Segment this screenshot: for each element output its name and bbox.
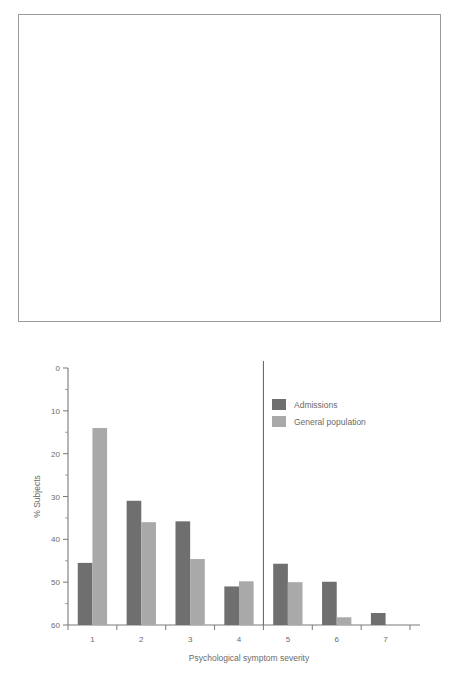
bar-general-population-2 — [141, 522, 156, 625]
y-tick-label-60: 0 — [56, 364, 61, 373]
y-tick-label-10: 50 — [51, 578, 60, 587]
x-tick-label-5: 5 — [286, 635, 291, 644]
false — [272, 416, 286, 427]
x-tick-label-3: 3 — [188, 635, 193, 644]
y-axis-title: % Subjects — [32, 475, 42, 518]
bar-admissions-7 — [371, 613, 386, 625]
bar-admissions-3 — [175, 521, 190, 625]
x-tick-label-7: 7 — [383, 635, 388, 644]
figure-symptom-severity: 60504030201001234567Psychological sympto… — [0, 340, 460, 676]
figure-distress-curves: %50403020101234567DiscressAcute threaten… — [0, 0, 460, 340]
bar-general-population-5 — [288, 582, 303, 625]
bar-general-population-3 — [190, 559, 205, 625]
legend-label-0: Admissions — [294, 400, 337, 410]
false — [272, 399, 286, 410]
x-tick-label-4: 4 — [237, 635, 242, 644]
bar-admissions-5 — [273, 564, 288, 625]
bar-admissions-4 — [224, 586, 239, 625]
legend-label-1: General population — [294, 417, 366, 427]
x-tick-label-2: 2 — [139, 635, 144, 644]
y-tick-label-30: 30 — [51, 493, 60, 502]
x-tick-label-1: 1 — [90, 635, 95, 644]
bar-general-population-1 — [92, 428, 107, 625]
y-tick-label-20: 40 — [51, 535, 60, 544]
bar-admissions-1 — [78, 563, 93, 625]
y-tick-label-40: 20 — [51, 450, 60, 459]
symptom-severity-bar-chart: 60504030201001234567Psychological sympto… — [0, 340, 460, 676]
bar-general-population-4 — [239, 581, 254, 625]
bar-admissions-2 — [127, 501, 142, 625]
x-axis-title: Psychological symptom severity — [189, 653, 310, 663]
bar-general-population-6 — [337, 617, 352, 625]
y-tick-label-50: 10 — [51, 407, 60, 416]
figure-frame-border — [18, 14, 441, 322]
x-tick-label-6: 6 — [334, 635, 339, 644]
y-tick-label-0: 60 — [51, 621, 60, 630]
bar-admissions-6 — [322, 582, 337, 625]
